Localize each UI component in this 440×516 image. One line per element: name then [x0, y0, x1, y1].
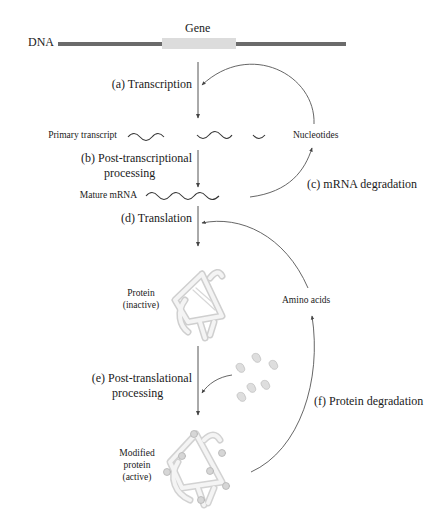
- step-f-protein-degradation: (f) Protein degradation: [314, 395, 423, 409]
- nucleotides-label: Nucleotides: [293, 130, 338, 141]
- protein-active-illustration: [164, 431, 230, 506]
- modified-protein-line1: Modified: [112, 448, 162, 459]
- step-b-line1: (b) Post-transcriptional: [81, 152, 192, 166]
- step-b-line2: processing: [104, 167, 155, 181]
- step-a-transcription: (a) Transcription: [112, 78, 192, 92]
- primary-transcript-fragments: [128, 132, 265, 141]
- protein-inactive-line1: Protein: [120, 288, 162, 299]
- recycle-arrows: [202, 64, 314, 472]
- gene-label: Gene: [185, 22, 210, 36]
- step-e-line1: (e) Post-translational: [92, 372, 192, 386]
- protein-inactive-line2: (inactive): [114, 300, 168, 311]
- step-e-line2: processing: [112, 387, 163, 401]
- step-c-mrna-degradation: (c) mRNA degradation: [307, 178, 417, 192]
- diagram-canvas: [0, 0, 440, 516]
- primary-transcript-label: Primary transcript: [48, 130, 117, 141]
- mature-mrna-strand: [146, 193, 219, 200]
- amino-acids-label: Amino acids: [282, 295, 330, 306]
- modified-protein-line2: protein: [112, 460, 162, 471]
- dna-strand: [58, 38, 346, 49]
- amino-acid-pool: [236, 353, 278, 401]
- mature-mrna-label: Mature mRNA: [80, 190, 137, 201]
- gene-region: [162, 38, 236, 49]
- dna-label: DNA: [28, 36, 54, 50]
- protein-inactive-illustration: [175, 272, 222, 338]
- step-d-translation: (d) Translation: [121, 212, 192, 226]
- modified-protein-line3: (active): [112, 472, 162, 483]
